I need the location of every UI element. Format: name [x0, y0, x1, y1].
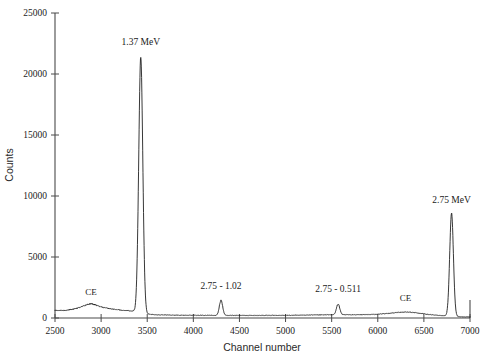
- x-tick-label: 6500: [414, 326, 433, 336]
- y-tick-label: 10000: [23, 191, 47, 201]
- x-tick-label: 2500: [46, 326, 65, 336]
- axis-lines: [55, 13, 470, 318]
- y-axis-ticks: 0500010000150002000025000: [23, 8, 59, 323]
- x-axis-title: Channel number: [223, 341, 301, 353]
- y-tick-label: 15000: [23, 130, 47, 140]
- x-tick-label: 4500: [230, 326, 249, 336]
- y-tick-label: 20000: [23, 69, 47, 79]
- x-tick-label: 6000: [368, 326, 387, 336]
- compton-edge-label: CE: [400, 293, 412, 303]
- photopeak-label: 2.75 MeV: [432, 195, 471, 205]
- x-tick-label: 5500: [322, 326, 341, 336]
- x-tick-label: 3500: [138, 326, 157, 336]
- y-tick-label: 0: [42, 313, 47, 323]
- spectrum-figure: 0500010000150002000025000 25003000350040…: [0, 0, 492, 360]
- double-escape-label: 2.75 - 1.02: [200, 281, 241, 291]
- compton-edge-label: CE: [85, 287, 97, 297]
- x-axis-ticks: 2500300035004000450050005500600065007000: [46, 314, 480, 336]
- x-tick-label: 3000: [92, 326, 111, 336]
- single-escape-label: 2.75 - 0.511: [315, 284, 361, 294]
- x-tick-label: 7000: [461, 326, 480, 336]
- x-tick-label: 4000: [184, 326, 203, 336]
- spectrum-plot: 0500010000150002000025000 25003000350040…: [0, 0, 492, 360]
- y-tick-label: 5000: [28, 252, 47, 262]
- y-tick-label: 25000: [23, 8, 47, 18]
- spectrum-trace: [55, 57, 470, 317]
- photopeak-label: 1.37 MeV: [122, 37, 161, 47]
- y-axis-title: Counts: [3, 148, 15, 181]
- x-tick-label: 5000: [276, 326, 295, 336]
